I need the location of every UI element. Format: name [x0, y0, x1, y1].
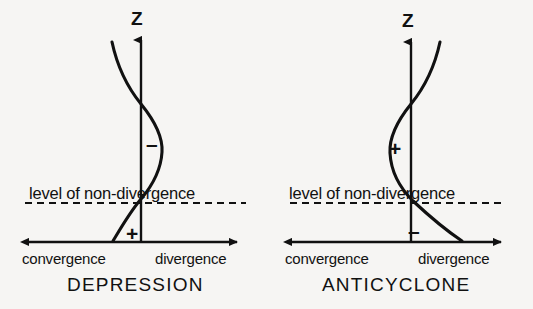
- convergence-label: convergence: [22, 251, 106, 266]
- panel-title-anticyclone: ANTICYCLONE: [322, 275, 470, 294]
- sign-upper-minus: –: [146, 133, 158, 154]
- panel-depression: Z level of non-divergence – + convergenc…: [0, 0, 267, 309]
- level-of-non-divergence-label: level of non-divergence: [289, 185, 455, 202]
- convergence-label: convergence: [285, 251, 369, 266]
- sign-upper-plus: +: [389, 138, 401, 159]
- level-of-non-divergence-label: level of non-divergence: [29, 185, 195, 202]
- sign-lower-plus: +: [126, 223, 138, 244]
- divergence-label: divergence: [418, 251, 489, 266]
- z-axis-label: Z: [402, 11, 414, 30]
- panel-anticyclone: Z level of non-divergence + – convergenc…: [266, 0, 533, 309]
- sign-lower-minus: –: [408, 220, 420, 241]
- figure-root: Z level of non-divergence – + convergenc…: [0, 0, 533, 309]
- z-axis-label: Z: [131, 9, 143, 28]
- panel-title-depression: DEPRESSION: [67, 275, 204, 294]
- divergence-label: divergence: [155, 251, 226, 266]
